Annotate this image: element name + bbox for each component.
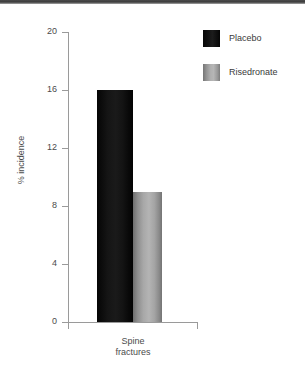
y-axis-tick-12: [62, 148, 69, 149]
y-axis-tick-label-4: 4: [17, 259, 57, 268]
y-axis-tick-label-20: 20: [17, 27, 57, 36]
x-axis-category-label: Spine fractures: [88, 336, 178, 358]
legend-label-risedronate: Risedronate: [229, 67, 278, 77]
y-axis-tick-0: [62, 322, 69, 323]
dark-swatch-icon: [203, 30, 220, 47]
y-axis-tick-20: [62, 32, 69, 33]
chart-screenshot: 20 16 12 8 4 0 % incidence Spine fractur…: [0, 0, 305, 374]
bar-risedronate: [133, 192, 162, 323]
y-axis-tick-label-0: 0: [17, 317, 57, 326]
y-axis-line: [68, 32, 69, 323]
bar-placebo: [97, 90, 133, 322]
y-axis-tick-4: [62, 264, 69, 265]
y-axis-title: % incidence: [16, 115, 26, 205]
gray-swatch-icon: [203, 64, 220, 81]
y-axis-tick-label-16: 16: [17, 85, 57, 94]
y-axis-tick-8: [62, 206, 69, 207]
y-axis-tick-16: [62, 90, 69, 91]
x-axis-category-line-2: fractures: [88, 347, 178, 358]
bar-chart-plot: 20 16 12 8 4 0 % incidence Spine fractur…: [0, 0, 305, 374]
x-axis-category-line-1: Spine: [88, 336, 178, 347]
x-axis-line: [68, 322, 198, 323]
x-axis-tick-start: [68, 322, 69, 329]
x-axis-tick-end: [197, 322, 198, 329]
legend-label-placebo: Placebo: [229, 33, 262, 43]
